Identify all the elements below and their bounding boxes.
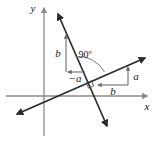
x-axis-label: x xyxy=(144,100,150,112)
figure-container: y x 90º b −a a b xyxy=(0,0,157,142)
run-left-label: −a xyxy=(69,72,82,84)
run-right-label: b xyxy=(110,85,116,97)
steep-line xyxy=(58,14,107,126)
right-angle-label: 90º xyxy=(78,49,91,60)
rise-left-label: b xyxy=(55,47,61,59)
perpendicular-lines-figure: y x 90º b −a a b xyxy=(0,0,157,142)
y-axis-label: y xyxy=(30,2,36,14)
rise-right-label: a xyxy=(133,70,139,82)
lines-group xyxy=(17,14,145,126)
